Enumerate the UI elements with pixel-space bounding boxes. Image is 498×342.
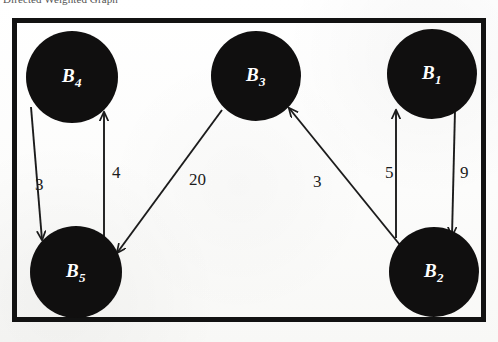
graph-node-b2-label: B2 xyxy=(424,261,444,284)
edge-weight-b4-b5: 3 xyxy=(35,175,44,195)
graph-node-b2-subscript: 2 xyxy=(437,269,444,284)
graph-node-b1[interactable]: B1 xyxy=(387,29,477,119)
edge-b2-to-b3 xyxy=(289,108,400,245)
edge-weight-b1-b2: 9 xyxy=(460,163,469,183)
edge-weight-b3-b5: 20 xyxy=(189,170,206,190)
graph-node-b3[interactable]: B3 xyxy=(211,31,301,121)
graph-node-b1-label: B1 xyxy=(422,63,442,86)
edge-b3-to-b5 xyxy=(117,110,222,253)
edge-weight-b2-b1: 5 xyxy=(385,163,394,183)
graph-node-b3-subscript: 3 xyxy=(259,73,266,88)
graph-node-b5-label: B5 xyxy=(66,261,86,284)
graph-node-b1-subscript: 1 xyxy=(435,71,442,86)
edge-weight-b2-b3: 3 xyxy=(313,172,322,192)
graph-node-b5-subscript: 5 xyxy=(79,269,86,284)
graph-node-b5[interactable]: B5 xyxy=(30,226,122,318)
edge-b4-to-b5 xyxy=(31,107,42,240)
graph-node-b4[interactable]: B4 xyxy=(26,31,118,123)
graph-node-b2[interactable]: B2 xyxy=(389,227,479,317)
graph-node-b4-label: B4 xyxy=(62,66,82,89)
edge-weight-b5-b4: 4 xyxy=(112,163,121,183)
graph-node-b4-subscript: 4 xyxy=(75,74,82,89)
graph-node-b3-label: B3 xyxy=(246,65,266,88)
edge-b1-to-b2 xyxy=(452,110,455,236)
